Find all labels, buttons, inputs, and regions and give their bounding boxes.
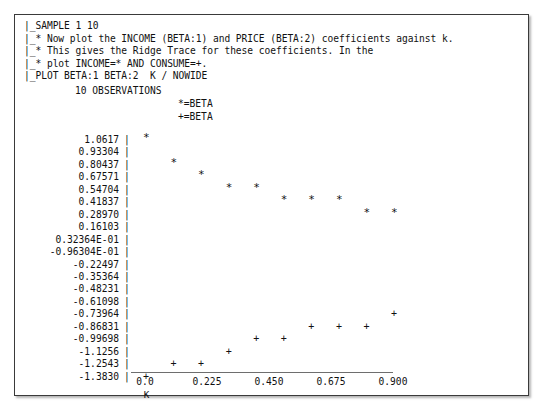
output-frame: |_SAMPLE 1 10|_* Now plot the INCOME (BE… [14, 14, 529, 396]
data-point-star: * [143, 133, 151, 143]
x-tick-label: 0.0 [122, 376, 168, 387]
y-tick-label: -0.73964 [17, 309, 119, 319]
data-point-star: * [336, 195, 344, 205]
data-point-plus: + [281, 334, 289, 344]
y-axis-segment: | [124, 272, 130, 282]
x-tick-label: 0.225 [184, 376, 230, 387]
data-point-star: * [308, 195, 316, 205]
data-point-plus: + [363, 322, 371, 332]
y-axis-segment: | [124, 347, 130, 357]
x-tick-label: 0.675 [308, 376, 354, 387]
data-point-star: * [198, 170, 206, 180]
y-axis-segment: | [124, 359, 130, 369]
data-point-star: * [363, 208, 371, 218]
x-axis-title: K [15, 389, 530, 400]
y-tick-label: -1.2543 [17, 359, 119, 369]
y-tick-label: 0.28970 [17, 210, 119, 220]
y-axis-segment: | [124, 247, 130, 257]
y-axis-segment: | [124, 185, 130, 195]
y-tick-label: 1.0617 [17, 135, 119, 145]
y-axis-segment: | [124, 297, 130, 307]
y-axis-segment: | [124, 147, 130, 157]
y-tick-label: -0.48231 [17, 284, 119, 294]
data-point-star: * [281, 195, 289, 205]
x-axis-line [131, 372, 393, 373]
y-tick-label: 0.93304 [17, 147, 119, 157]
y-tick-label: -0.22497 [17, 260, 119, 270]
y-tick-label: 0.16103 [17, 222, 119, 232]
data-point-star: * [391, 208, 399, 218]
y-axis-segment: | [124, 197, 130, 207]
data-point-plus: + [226, 347, 234, 357]
data-point-plus: + [308, 322, 316, 332]
data-point-plus: + [336, 322, 344, 332]
x-axis-title-text: K [144, 389, 150, 400]
y-axis-segment: | [124, 172, 130, 182]
data-point-plus: + [198, 359, 206, 369]
y-tick-label: 0.32364E-01 [17, 235, 119, 245]
y-tick-label: 0.41837 [17, 197, 119, 207]
y-tick-label: -0.99698 [17, 334, 119, 344]
data-point-star: * [253, 183, 261, 193]
y-axis-segment: | [124, 135, 130, 145]
y-axis-segment: | [124, 222, 130, 232]
y-tick-label: -1.3830 [17, 372, 119, 382]
x-tick-label: 0.900 [370, 376, 416, 387]
y-tick-label: 0.54704 [17, 185, 119, 195]
y-axis-segment: | [124, 309, 130, 319]
y-tick-label: 0.67571 [17, 172, 119, 182]
y-axis-segment: | [124, 322, 130, 332]
y-tick-label: -0.61098 [17, 297, 119, 307]
y-tick-label: 0.80437 [17, 160, 119, 170]
y-axis-segment: | [124, 160, 130, 170]
data-point-plus: + [391, 309, 399, 319]
data-point-star: * [226, 183, 234, 193]
y-axis-segment: | [124, 284, 130, 294]
data-point-plus: + [253, 334, 261, 344]
data-point-star: * [171, 158, 179, 168]
y-tick-label: -1.1256 [17, 347, 119, 357]
y-axis-segment: | [124, 235, 130, 245]
y-axis-segment: | [124, 334, 130, 344]
x-tick-label: 0.450 [246, 376, 292, 387]
y-tick-label: -0.35364 [17, 272, 119, 282]
y-tick-label: -0.96304E-01 [17, 247, 119, 257]
y-axis-segment: | [124, 260, 130, 270]
y-tick-label: -0.86831 [17, 322, 119, 332]
y-axis-segment: | [124, 210, 130, 220]
plot-area: 1.06170.933040.804370.675710.547040.4183… [15, 15, 530, 397]
data-point-plus: + [171, 359, 179, 369]
